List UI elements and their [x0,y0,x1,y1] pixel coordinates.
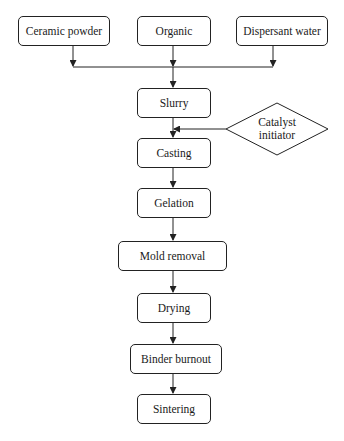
node-label: Organic [156,25,193,37]
node-sintering: Sintering [137,394,211,424]
node-slurry: Slurry [137,88,211,118]
catalyst-initiator-label: Catalyst initiator [236,110,318,148]
node-label: Ceramic powder [26,25,102,37]
node-mold-removal: Mold removal [118,241,227,271]
node-label: Slurry [160,97,189,109]
node-label: Mold removal [140,250,205,262]
node-label: Binder burnout [141,353,211,365]
node-label: Casting [156,147,191,159]
node-label: Dispersant water [243,25,321,37]
node-label: Gelation [154,197,194,209]
node-binder-burnout: Binder burnout [130,344,222,374]
node-drying: Drying [137,293,211,323]
node-label: Sintering [153,403,195,415]
node-organic: Organic [137,16,211,46]
catalyst-label-line1: Catalyst [258,116,296,129]
node-gelation: Gelation [137,188,211,218]
node-dispersant-water: Dispersant water [236,16,328,46]
node-label: Drying [158,302,191,314]
flowchart-connectors [0,0,344,441]
node-ceramic-powder: Ceramic powder [18,16,110,46]
node-casting: Casting [137,138,211,168]
catalyst-label-line2: initiator [259,129,295,142]
